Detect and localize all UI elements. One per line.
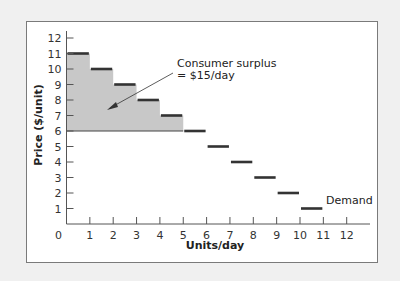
y-tick-label: 12	[48, 32, 62, 45]
x-tick-label: 2	[110, 229, 117, 242]
consumer-surplus-value: = $15/day	[177, 69, 235, 82]
x-tick-label: 12	[340, 229, 354, 242]
x-tick-label: 1	[86, 229, 93, 242]
y-tick-label: 7	[55, 110, 62, 123]
y-tick-label: 6	[55, 125, 62, 138]
y-axis-title: Price ($/unit)	[32, 84, 45, 166]
demand-label: Demand	[326, 194, 373, 207]
x-tick-label: 9	[273, 229, 280, 242]
demand-chart: 0123456789101112123456789101112 Consumer…	[0, 0, 400, 281]
x-tick-label: 3	[133, 229, 140, 242]
y-tick-label: 5	[55, 141, 62, 154]
y-tick-label: 8	[55, 94, 62, 107]
y-tick-label: 10	[48, 63, 62, 76]
x-tick-label: 11	[316, 229, 330, 242]
y-tick-label: 1	[55, 203, 62, 216]
x-tick-label: 8	[250, 229, 257, 242]
y-tick-label: 2	[55, 187, 62, 200]
x-tick-label: 10	[293, 229, 307, 242]
y-tick-label: 3	[55, 172, 62, 185]
y-tick-label: 4	[55, 156, 62, 169]
x-axis-title: Units/day	[186, 239, 245, 252]
y-tick-label: 9	[55, 79, 62, 92]
shaded-area	[67, 54, 184, 132]
x-tick-label: 0	[55, 229, 62, 242]
consumer-surplus-area	[67, 54, 184, 132]
y-tick-label: 11	[48, 48, 62, 61]
x-tick-label: 4	[156, 229, 163, 242]
